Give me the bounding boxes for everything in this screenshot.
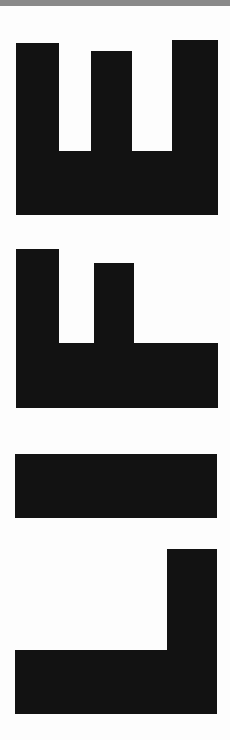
letter-e-arm-1 <box>16 43 59 153</box>
letter-i-bar <box>15 454 217 518</box>
letter-l-stem <box>15 650 217 714</box>
letter-f-arm-2 <box>94 263 134 345</box>
letter-e-spine <box>16 151 218 215</box>
letter-f-spine <box>16 343 218 408</box>
top-band <box>0 0 230 6</box>
letter-e-arm-3 <box>172 40 218 153</box>
letter-l-foot <box>167 549 217 652</box>
letter-e-arm-2 <box>91 51 132 153</box>
letter-f-arm-1 <box>16 249 59 345</box>
